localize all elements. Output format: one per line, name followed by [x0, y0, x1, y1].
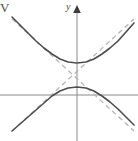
y-axis-arrow-icon [73, 5, 81, 13]
hyperbola-plot-canvas [0, 0, 138, 141]
hyperbola-figure: V y [0, 0, 138, 141]
hyperbola-lower-branch [12, 87, 134, 131]
y-axis-label: y [66, 1, 70, 12]
quadrant-annotation-label: V [0, 1, 9, 15]
hyperbola-upper-branch [12, 17, 134, 63]
